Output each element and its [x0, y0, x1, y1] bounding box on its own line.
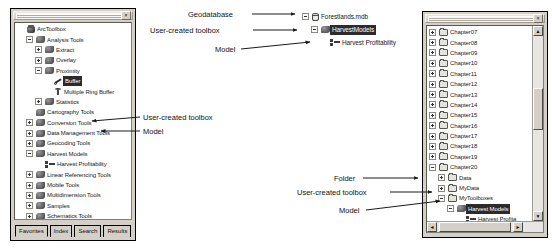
tree-row[interactable]: Cartography Tools — [15, 107, 131, 117]
tree-row[interactable]: MyToolboxes — [427, 193, 531, 203]
horizontal-scrollbar[interactable]: ◄ ► — [427, 221, 543, 232]
tree-row[interactable]: Chapter09 — [427, 48, 531, 58]
tab-search[interactable]: Search — [74, 225, 101, 237]
tree-row[interactable]: Chapter14 — [427, 100, 531, 110]
tree-row[interactable]: Chapter08 — [427, 37, 531, 47]
expand-icon[interactable] — [35, 46, 42, 53]
expand-icon[interactable] — [429, 143, 436, 150]
vertical-scrollbar[interactable]: ▲ ▼ — [532, 26, 543, 232]
tree-row[interactable]: Multiple Ring Buffer — [15, 86, 131, 96]
collapse-icon[interactable] — [26, 150, 33, 157]
collapse-icon[interactable] — [302, 13, 309, 20]
scroll-down-button[interactable]: ▼ — [533, 211, 543, 221]
tree-row[interactable]: Harvest Profitability — [15, 159, 131, 169]
geodatabase-tree[interactable]: Forestlands.mdbHarvestModelsHarvest Prof… — [300, 10, 430, 49]
collapse-icon[interactable] — [35, 67, 42, 74]
expand-icon[interactable] — [429, 60, 436, 67]
tab-favorites[interactable]: Favorites — [15, 225, 48, 237]
annotation-model-top: Model — [215, 45, 235, 54]
expand-icon[interactable] — [429, 91, 436, 98]
tree-row[interactable]: Harvest Models — [427, 204, 531, 214]
titlebar-grip[interactable] — [16, 13, 121, 19]
tree-row[interactable]: Chapter17 — [427, 131, 531, 141]
scroll-right-button[interactable]: ► — [513, 222, 523, 232]
tree-row[interactable]: Data — [427, 172, 531, 182]
expand-icon[interactable] — [26, 171, 33, 178]
tree-row[interactable]: Geocoding Tools — [15, 138, 131, 148]
expand-icon[interactable] — [429, 101, 436, 108]
tree-row[interactable]: Chapter15 — [427, 110, 531, 120]
tree-row[interactable]: Chapter19 — [427, 152, 531, 162]
collapse-icon[interactable] — [429, 164, 436, 171]
expand-icon[interactable] — [26, 213, 33, 220]
tree-row[interactable]: ArcToolbox — [15, 24, 131, 34]
tree-row[interactable]: Extract — [15, 45, 131, 55]
scroll-left-button[interactable]: ◄ — [427, 222, 437, 232]
expand-icon[interactable] — [429, 70, 436, 77]
tree-row[interactable]: Chapter13 — [427, 89, 531, 99]
tree-row[interactable]: Proximity — [15, 66, 131, 76]
tree-row[interactable]: Chapter16 — [427, 121, 531, 131]
expand-icon[interactable] — [429, 112, 436, 119]
tree-row[interactable]: Chapter18 — [427, 141, 531, 151]
tree-row[interactable]: Data Management Tools — [15, 128, 131, 138]
tree-row[interactable]: Multidimension Tools — [15, 190, 131, 200]
tree-row[interactable]: Chapter12 — [427, 79, 531, 89]
expand-icon[interactable] — [429, 133, 436, 140]
tree-row[interactable]: Harvest Profitability — [300, 36, 430, 49]
tree-row[interactable]: Schematics Tools — [15, 211, 131, 220]
expand-icon[interactable] — [429, 153, 436, 160]
tree-row[interactable]: Chapter20 — [427, 162, 531, 172]
tree-row[interactable]: Buffer — [15, 76, 131, 86]
tab-results[interactable]: Results — [103, 225, 131, 237]
expand-icon[interactable] — [35, 98, 42, 105]
titlebar-grip[interactable] — [428, 16, 533, 22]
tab-index[interactable]: Index — [50, 225, 73, 237]
tree-row[interactable]: HarvestModels — [300, 23, 430, 36]
tree-row[interactable]: Mobile Tools — [15, 180, 131, 190]
tree-row[interactable]: Chapter11 — [427, 69, 531, 79]
tree-row[interactable]: Overlay — [15, 55, 131, 65]
close-icon[interactable]: × — [121, 11, 131, 20]
tree-row[interactable]: Chapter07 — [427, 27, 531, 37]
expand-icon[interactable] — [35, 57, 42, 64]
collapse-icon[interactable] — [311, 26, 318, 33]
tree-row[interactable]: Harvest Models — [15, 149, 131, 159]
scroll-up-button[interactable]: ▲ — [533, 26, 543, 36]
close-icon[interactable]: × — [533, 14, 543, 23]
tree-row[interactable]: Samples — [15, 201, 131, 211]
tree-row[interactable]: Chapter10 — [427, 58, 531, 68]
arctoolbox-titlebar[interactable]: × — [13, 11, 133, 20]
collapse-icon[interactable] — [438, 195, 445, 202]
tree-row[interactable]: MyData — [427, 183, 531, 193]
tree-row[interactable]: Forestlands.mdb — [300, 10, 430, 23]
tree-row[interactable]: Linear Referencing Tools — [15, 169, 131, 179]
expand-icon[interactable] — [429, 29, 436, 36]
expand-icon[interactable] — [26, 130, 33, 137]
tree-row-label: Multiple Ring Buffer — [62, 87, 114, 97]
arctoolbox-tab-bar[interactable]: FavoritesIndexSearchResults — [15, 225, 131, 237]
expand-icon[interactable] — [438, 185, 445, 192]
tree-row[interactable]: Statistics — [15, 97, 131, 107]
expand-icon[interactable] — [438, 174, 445, 181]
expander-spacer — [26, 109, 33, 116]
expand-icon[interactable] — [26, 119, 33, 126]
folder-icon — [439, 49, 448, 56]
expand-icon[interactable] — [429, 122, 436, 129]
catalog-titlebar[interactable]: × — [425, 14, 545, 23]
expand-icon[interactable] — [26, 192, 33, 199]
tree-row[interactable]: Conversion Tools — [15, 118, 131, 128]
expand-icon[interactable] — [429, 39, 436, 46]
expand-icon[interactable] — [26, 140, 33, 147]
catalog-tree[interactable]: Chapter07Chapter08Chapter09Chapter10Chap… — [427, 26, 531, 233]
arctoolbox-tree[interactable]: ArcToolboxAnalysis ToolsExtractOverlayPr… — [15, 23, 131, 220]
collapse-icon[interactable] — [447, 205, 454, 212]
horizontal-scroll-thumb[interactable] — [439, 222, 511, 232]
expand-icon[interactable] — [429, 81, 436, 88]
vertical-scroll-thumb[interactable] — [533, 88, 543, 130]
tree-row[interactable]: Analysis Tools — [15, 34, 131, 44]
expand-icon[interactable] — [429, 49, 436, 56]
expand-icon[interactable] — [26, 182, 33, 189]
expand-icon[interactable] — [26, 202, 33, 209]
collapse-icon[interactable] — [26, 36, 33, 43]
